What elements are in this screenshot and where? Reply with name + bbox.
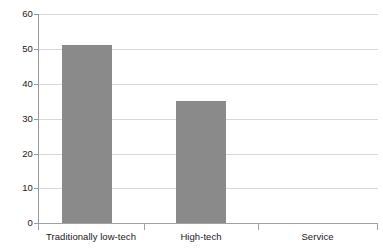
y-tick-mark-50	[34, 49, 39, 50]
x-axis-label-high-tech: High-tech	[144, 231, 258, 243]
bar-traditionally-low-tech[interactable]	[62, 45, 112, 223]
x-axis-label-traditionally-low-tech: Traditionally low-tech	[38, 231, 144, 243]
y-tick-mark-20	[34, 154, 39, 155]
y-tick-text-50: 50	[14, 44, 33, 54]
y-tick-text-60: 60	[14, 9, 33, 19]
y-tick-mark-40	[34, 84, 39, 85]
y-tick-text-10: 10	[14, 183, 33, 193]
x-axis-label-service: Service	[258, 231, 377, 243]
y-tick-text-20: 20	[14, 149, 33, 159]
bar-high-tech[interactable]	[176, 101, 226, 223]
y-tick-text-40: 40	[14, 79, 33, 89]
y-tick-mark-30	[34, 119, 39, 120]
x-tick-mark-end	[377, 224, 378, 230]
axis-baseline	[38, 223, 378, 224]
y-tick-mark-60	[34, 14, 39, 15]
bar-chart: 60 50 40 30 20 10 0 Traditionally low-te…	[0, 0, 383, 250]
gridline-60	[38, 14, 378, 15]
x-tick-mark-start	[38, 224, 39, 230]
x-tick-mark-1	[144, 224, 145, 230]
x-tick-mark-2	[258, 224, 259, 230]
y-tick-mark-10	[34, 188, 39, 189]
y-tick-text-0: 0	[14, 218, 33, 228]
y-tick-text-30: 30	[14, 114, 33, 124]
